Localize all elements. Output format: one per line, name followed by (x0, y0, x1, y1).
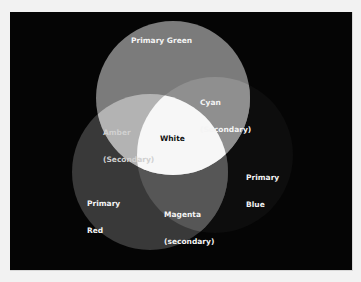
label-magenta: Magenta (secondary) (164, 192, 214, 255)
label-cyan-line2: (Secondary) (200, 125, 251, 134)
label-primary-green: Primary Green (131, 36, 192, 45)
label-primary-red: Primary Red (87, 181, 120, 244)
label-cyan: Cyan (Secondary) (200, 80, 251, 143)
label-primary-blue-line2: Blue (246, 200, 279, 209)
label-primary-blue-line1: Primary (246, 173, 279, 182)
label-primary-blue: Primary Blue (246, 155, 279, 218)
label-cyan-line1: Cyan (200, 98, 251, 107)
label-amber: Amber (Secondary) (103, 110, 154, 173)
label-primary-red-line1: Primary (87, 199, 120, 208)
label-amber-line2: (Secondary) (103, 155, 154, 164)
label-white: White (160, 134, 185, 143)
label-magenta-line2: (secondary) (164, 237, 214, 246)
label-amber-line1: Amber (103, 128, 154, 137)
label-magenta-line1: Magenta (164, 210, 214, 219)
label-primary-red-line2: Red (87, 226, 120, 235)
